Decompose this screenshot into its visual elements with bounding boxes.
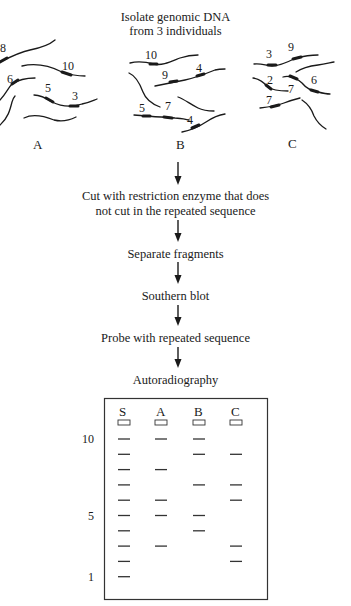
individual-label-b: B	[176, 137, 185, 152]
fragment-label: 2	[267, 73, 273, 87]
individual-b-dna	[129, 55, 225, 132]
fragment-label: 7	[266, 93, 272, 107]
fragment-label: 5	[139, 101, 145, 115]
lane-label-c: C	[231, 404, 240, 419]
step-probe: Probe with repeated sequence	[0, 331, 351, 346]
size-label-10: 10	[82, 432, 94, 446]
arrow-down-icon	[175, 220, 182, 242]
size-label-5: 5	[88, 509, 94, 523]
fragment-label: 7	[165, 99, 171, 113]
fragment-label: 7	[288, 82, 294, 96]
fragment-label: 4	[196, 61, 202, 75]
fragment-label: 6	[311, 73, 317, 87]
autoradiograph-gel: S A B C	[105, 399, 268, 600]
lane-label-s: S	[119, 404, 126, 419]
fragment-label: 9	[162, 68, 168, 82]
fragment-label: 5	[45, 81, 51, 95]
step-southern-blot: Southern blot	[0, 289, 351, 304]
fragment-label: 8	[0, 41, 6, 55]
fragment-label: 3	[266, 47, 272, 61]
arrow-down-icon	[175, 347, 182, 368]
fragment-label: 9	[288, 40, 294, 54]
fragment-label: 6	[7, 72, 13, 86]
arrow-down-icon	[175, 262, 182, 284]
step-autoradiography: Autoradiography	[0, 373, 351, 388]
fragment-label: 3	[72, 89, 78, 103]
lane-label-a: A	[156, 404, 166, 419]
lane-label-b: B	[194, 404, 203, 419]
arrow-down-icon	[175, 162, 182, 185]
step-cut-line-2: not cut in the repeated sequence	[0, 204, 351, 219]
fragment-label: 4	[187, 113, 193, 127]
arrow-down-icon	[175, 305, 182, 326]
individual-label-a: A	[33, 137, 43, 152]
step-cut-line-1: Cut with restriction enzyme that does	[0, 189, 351, 204]
size-label-1: 1	[88, 570, 94, 584]
fragment-label: 10	[62, 59, 74, 73]
step-separate: Separate fragments	[0, 247, 351, 262]
individual-label-c: C	[288, 136, 297, 151]
fragment-label: 10	[145, 48, 157, 62]
